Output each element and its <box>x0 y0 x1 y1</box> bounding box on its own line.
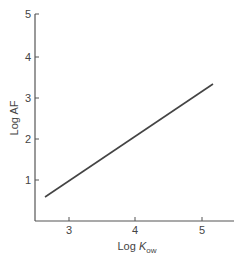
x-axis: 3 4 5 Log Kow <box>35 217 234 255</box>
x-tick-label: 4 <box>132 224 138 236</box>
y-tick-label: 4 <box>25 51 31 63</box>
y-axis-label: Log AF <box>8 100 20 135</box>
x-tick-label: 3 <box>66 224 72 236</box>
y-tick-label: 5 <box>25 8 31 20</box>
chart: 5 4 3 2 1 Log AF 3 4 5 Log Kow <box>0 0 243 256</box>
y-tick-label: 2 <box>25 133 31 145</box>
y-tick-label: 1 <box>25 174 31 186</box>
data-line <box>45 84 213 197</box>
y-tick-label: 3 <box>25 92 31 104</box>
x-axis-label: Log Kow <box>118 240 157 255</box>
x-tick-label: 5 <box>199 224 205 236</box>
y-axis: 5 4 3 2 1 Log AF <box>8 8 39 221</box>
